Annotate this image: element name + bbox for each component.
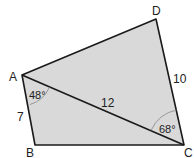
vertex-label-c: C [184,146,193,158]
vertex-label-d: D [152,4,161,18]
side-label-ac: 12 [101,96,115,110]
angle-label-a: 48° [29,89,46,101]
vertex-label-b: B [26,146,34,158]
side-label-ab: 7 [17,110,24,124]
vertex-label-a: A [9,70,17,84]
quadrilateral-diagram: A B C D 7 12 10 48° 68° [0,0,194,158]
side-label-dc: 10 [173,72,187,86]
angle-label-c: 68° [159,123,176,135]
